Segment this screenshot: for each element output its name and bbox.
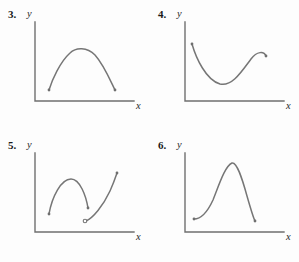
curve-segment <box>49 49 115 90</box>
plot-area-4 <box>150 0 299 131</box>
plot-area-5 <box>0 131 149 262</box>
curve-endpoint-start-left <box>48 213 51 216</box>
graph-panel-3: 3. y x <box>0 0 149 131</box>
curve-segment <box>194 163 255 221</box>
plot-area-6 <box>150 131 299 262</box>
curve-segment-right <box>86 173 117 221</box>
curve-endpoint-end-right <box>116 172 119 175</box>
graph-panel-4: 4. y x <box>150 0 299 131</box>
curve-endpoint-end <box>114 89 117 92</box>
curve-endpoint-end-left <box>87 207 90 210</box>
curve-endpoint-start <box>48 89 51 92</box>
curve-endpoint-start <box>193 218 196 221</box>
curve-endpoint-start <box>191 43 194 46</box>
curve-endpoint-end <box>265 55 268 58</box>
plot-area-3 <box>0 0 149 131</box>
graph-panel-5: 5. y x <box>0 131 149 262</box>
curve-endpoint-open-start-right <box>83 219 87 223</box>
axes-path <box>185 22 284 101</box>
curve-endpoint-end <box>254 220 257 223</box>
curve-segment-left <box>49 179 88 214</box>
graph-panel-6: 6. y x <box>150 131 299 262</box>
curve-segment <box>192 44 266 84</box>
figure-sheet: 3. y x 4. y x 5. y x <box>0 0 299 262</box>
